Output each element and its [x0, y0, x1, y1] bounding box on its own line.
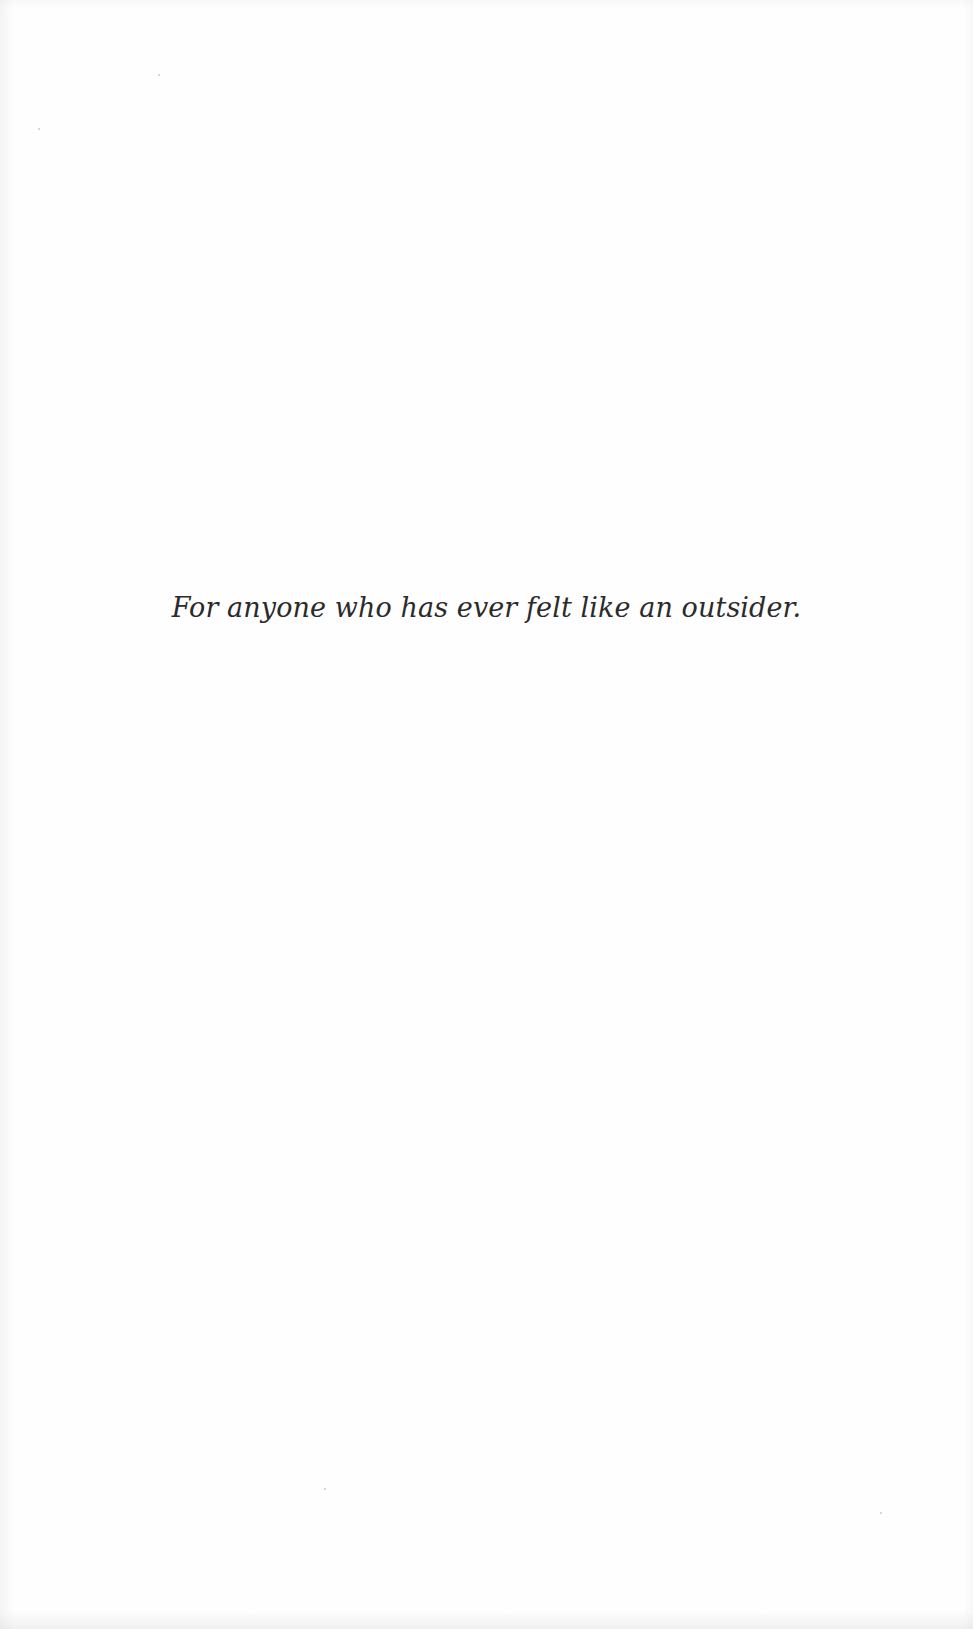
book-page: For anyone who has ever felt like an out…: [0, 0, 973, 1629]
scan-speck: [880, 1512, 882, 1514]
scan-speck: [158, 74, 160, 76]
scan-speck: [38, 128, 40, 130]
dedication-text: For anyone who has ever felt like an out…: [0, 588, 973, 628]
scan-speck: [324, 1488, 326, 1490]
